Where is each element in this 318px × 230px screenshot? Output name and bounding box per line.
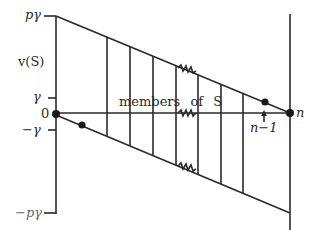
label-n: n: [296, 106, 304, 119]
label-minus-p-gamma: −pγ: [15, 206, 42, 219]
label-n-minus-1: n−1: [250, 121, 278, 134]
label-zero: 0: [41, 107, 49, 120]
label-members-of-s: members of S: [119, 95, 222, 108]
n-point: [286, 109, 294, 117]
label-gamma: γ: [33, 90, 41, 103]
lower-point: [78, 121, 85, 128]
origin-point: [52, 110, 60, 118]
label-p-gamma: pγ: [25, 8, 41, 21]
label-v-of-s: v(S): [18, 55, 44, 68]
break-mark-upper: [178, 65, 196, 73]
n-minus-1-point: [261, 98, 268, 105]
diagram-figure: pγ v(S) γ 0 −γ −pγ members of S n n−1: [0, 0, 318, 230]
label-minus-gamma: −γ: [22, 123, 41, 136]
